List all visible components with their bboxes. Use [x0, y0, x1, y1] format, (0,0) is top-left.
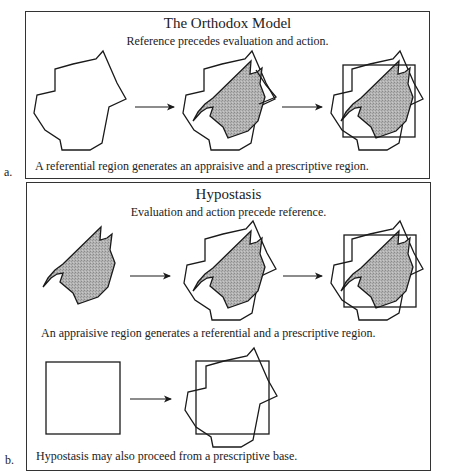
panel-a-title: The Orthodox Model — [26, 15, 429, 32]
panel-a-subtitle: Reference precedes evaluation and action… — [26, 34, 429, 49]
panel-b-caption-1: An appraisive region generates a referen… — [41, 326, 376, 341]
panel-hypostasis: Hypostasis Evaluation and action precede… — [26, 182, 431, 471]
panel-a-label: a. — [4, 165, 12, 180]
panel-a-caption: A referential region generates an apprai… — [35, 159, 369, 174]
panel-b-title: Hypostasis — [27, 186, 430, 203]
panel-b-caption-2: Hypostasis may also proceed from a presc… — [36, 449, 297, 464]
panel-orthodox-model: The Orthodox Model Reference precedes ev… — [25, 11, 430, 179]
panel-b-label: b. — [5, 453, 14, 468]
panel-b-subtitle: Evaluation and action precede reference. — [27, 205, 430, 220]
